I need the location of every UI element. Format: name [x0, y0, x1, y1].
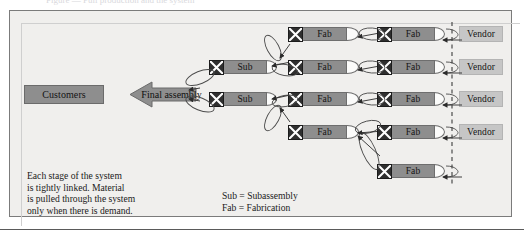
vendor-label: Vendor — [467, 94, 495, 104]
kanban-card-icon — [209, 92, 224, 107]
fab-label: Fab — [317, 127, 332, 137]
fab-box: Fab — [391, 125, 435, 139]
kanban-card-icon — [377, 164, 392, 179]
kanban-card-icon — [377, 27, 392, 42]
vendor-box: Vendor — [459, 59, 503, 75]
bottom-rule — [0, 229, 524, 230]
final-assembly-label-wrap: Final assembly — [144, 85, 199, 104]
fab-label: Fab — [317, 29, 332, 39]
vendor-box: Vendor — [459, 91, 503, 107]
sub-label: Sub — [237, 62, 252, 72]
fab-box: Fab — [391, 164, 435, 178]
kanban-card-icon — [377, 125, 392, 140]
fab-label: Fab — [317, 62, 332, 72]
sub-box: Sub — [223, 92, 267, 106]
fab-box: Fab — [302, 60, 347, 74]
fab-label: Fab — [406, 166, 421, 176]
vendor-box: Vendor — [459, 124, 503, 140]
kanban-card-icon — [377, 92, 392, 107]
vendor-box: Vendor — [459, 26, 503, 42]
fab-box: Fab — [391, 27, 435, 41]
fab-box: Fab — [302, 125, 347, 139]
fab-label: Fab — [406, 62, 421, 72]
final-assembly-label: Final assembly — [141, 89, 201, 100]
kanban-card-icon — [288, 125, 303, 140]
fab-box: Fab — [391, 92, 435, 106]
customers-box: Customers — [24, 85, 104, 104]
abbreviation-legend: Sub = Subassembly Fab = Fabrication — [222, 190, 372, 213]
kanban-card-icon — [288, 27, 303, 42]
fab-box: Fab — [391, 60, 435, 74]
fab-box: Fab — [302, 92, 347, 106]
fab-label: Fab — [406, 94, 421, 104]
customers-label: Customers — [42, 89, 86, 100]
sub-label: Sub — [237, 94, 252, 104]
kanban-card-icon — [288, 92, 303, 107]
kanban-card-icon — [288, 60, 303, 75]
fab-box: Fab — [302, 27, 347, 41]
figure-root: Figure — Pull production and the system … — [0, 0, 524, 238]
fab-label: Fab — [406, 127, 421, 137]
figure-caption-remnant: Figure — Pull production and the system — [46, 0, 306, 5]
fab-label: Fab — [317, 94, 332, 104]
vendor-label: Vendor — [467, 62, 495, 72]
explanatory-note: Each stage of the system is tightly link… — [27, 170, 217, 216]
kanban-card-icon — [209, 60, 224, 75]
vendor-label: Vendor — [467, 127, 495, 137]
kanban-card-icon — [377, 60, 392, 75]
vendor-label: Vendor — [467, 29, 495, 39]
sub-box: Sub — [223, 60, 267, 74]
fab-label: Fab — [406, 29, 421, 39]
